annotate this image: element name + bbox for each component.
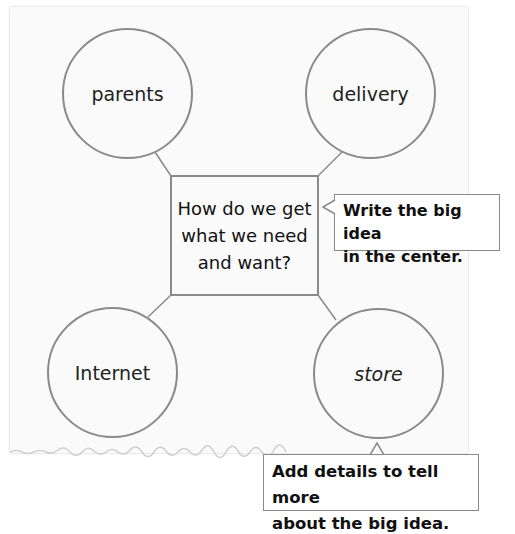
callout-line: Add details to tell more	[272, 459, 470, 511]
callout-details: Add details to tell more about the big i…	[263, 454, 479, 511]
callout-line: about the big idea.	[272, 511, 470, 534]
